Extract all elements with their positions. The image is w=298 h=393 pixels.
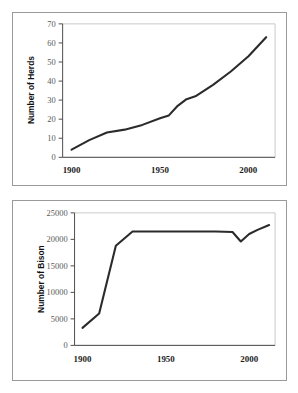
bison-y-axis-title: Number of Bison	[36, 245, 46, 313]
herds-ytick-10: 10	[47, 133, 55, 143]
bison-y-ticks	[71, 213, 75, 346]
bison-x-tick-labels: 1900 1950 2000	[74, 354, 259, 364]
herds-y-axis-title: Number of Herds	[26, 56, 36, 124]
chart-panel-herds: 0 10 20 30 40 50 60 70 1900 1950 2000 Nu…	[12, 12, 287, 186]
bison-ytick-5000: 5000	[51, 314, 68, 324]
herds-y-tick-labels: 0 10 20 30 40 50 60 70	[47, 19, 55, 162]
herds-ytick-0: 0	[51, 152, 55, 162]
herds-ytick-40: 40	[47, 76, 55, 86]
herds-ytick-50: 50	[47, 57, 55, 67]
bison-ytick-0: 0	[63, 340, 67, 350]
bison-y-tick-labels: 0 5000 10000 15000 20000 25000	[47, 208, 68, 351]
bison-ytick-15000: 15000	[47, 261, 68, 271]
bison-ytick-20000: 20000	[47, 234, 68, 244]
herds-data-series	[72, 37, 267, 149]
bison-xtick-1950: 1950	[157, 354, 175, 364]
bison-plot-area: 0 5000 10000 15000 20000 25000 1900 1950…	[36, 208, 275, 364]
bison-xtick-1900: 1900	[74, 354, 92, 364]
bison-ytick-10000: 10000	[47, 287, 68, 297]
herds-xtick-2000: 2000	[239, 165, 257, 175]
herds-ytick-60: 60	[47, 38, 55, 48]
bison-line-chart: 0 5000 10000 15000 20000 25000 1900 1950…	[13, 201, 286, 380]
bison-data-series	[82, 225, 269, 328]
herds-ytick-30: 30	[47, 95, 55, 105]
chart-panel-bison: 0 5000 10000 15000 20000 25000 1900 1950…	[12, 200, 287, 381]
herds-line-chart: 0 10 20 30 40 50 60 70 1900 1950 2000 Nu…	[13, 13, 286, 185]
herds-y-ticks	[59, 24, 63, 157]
herds-xtick-1950: 1950	[151, 165, 169, 175]
herds-plot-area: 0 10 20 30 40 50 60 70 1900 1950 2000 Nu…	[26, 19, 275, 175]
herds-xtick-1900: 1900	[63, 165, 81, 175]
figure-page: 0 10 20 30 40 50 60 70 1900 1950 2000 Nu…	[0, 0, 298, 393]
bison-ytick-25000: 25000	[47, 208, 68, 218]
herds-ytick-70: 70	[47, 19, 55, 29]
bison-xtick-2000: 2000	[240, 354, 258, 364]
herds-ytick-20: 20	[47, 114, 55, 124]
bison-plot-frame	[75, 213, 276, 346]
herds-x-tick-labels: 1900 1950 2000	[63, 165, 258, 175]
